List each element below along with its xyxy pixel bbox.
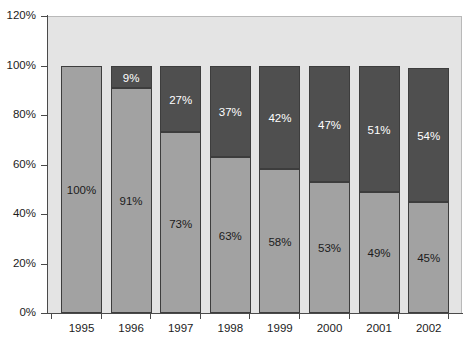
- bar-segment-label: 63%: [211, 230, 250, 242]
- bar-segment-lower[interactable]: 63%: [210, 157, 251, 313]
- bar-group[interactable]: 47%53%: [309, 66, 350, 314]
- bar-segment-label: 58%: [260, 236, 299, 248]
- y-tick-mark: [41, 115, 48, 116]
- bar-segment-label: 37%: [211, 106, 250, 118]
- y-tick-label: 100%: [0, 60, 36, 71]
- y-tick-mark: [41, 16, 48, 17]
- bar-segment-lower[interactable]: 53%: [309, 182, 350, 313]
- x-tick-mark: [398, 314, 399, 319]
- bar-segment-upper[interactable]: 9%: [111, 66, 152, 88]
- bar-segment-lower[interactable]: 100%: [61, 66, 102, 314]
- bar-segment-upper[interactable]: 37%: [210, 66, 251, 158]
- bar-segment-upper[interactable]: 42%: [259, 66, 300, 170]
- bar-segment-label: 49%: [360, 247, 399, 259]
- bar-group[interactable]: 9%91%: [111, 66, 152, 314]
- x-tick-mark: [200, 314, 201, 319]
- x-tick-mark: [349, 314, 350, 319]
- bar-group[interactable]: 42%58%: [259, 66, 300, 314]
- x-tick-mark: [299, 314, 300, 319]
- bar-segment-lower[interactable]: 58%: [259, 169, 300, 313]
- y-tick-mark: [41, 313, 48, 314]
- bar-segment-label: 42%: [260, 112, 299, 124]
- bar-segment-label: 100%: [62, 184, 101, 196]
- y-tick-label: 0%: [0, 307, 36, 318]
- x-tick-mark: [150, 314, 151, 319]
- bar-group[interactable]: 100%: [61, 66, 102, 314]
- bar-segment-label: 53%: [310, 242, 349, 254]
- y-tick-label: 120%: [0, 10, 36, 21]
- bar-segment-label: 27%: [161, 94, 200, 106]
- y-tick-label: 60%: [0, 159, 36, 170]
- x-tick-mark: [101, 314, 102, 319]
- y-tick-mark: [41, 165, 48, 166]
- y-tick-label: 20%: [0, 258, 36, 269]
- bar-segment-label: 9%: [112, 72, 151, 84]
- x-tick-label: 2002: [399, 322, 459, 335]
- bar-segment-upper[interactable]: 47%: [309, 66, 350, 182]
- bar-segment-lower[interactable]: 91%: [111, 88, 152, 313]
- stacked-bar-chart: 0%20%40%60%80%100%120% 19951996199719981…: [0, 0, 473, 347]
- bar-segment-label: 47%: [310, 119, 349, 131]
- y-tick-label: 40%: [0, 208, 36, 219]
- bar-segment-label: 91%: [112, 195, 151, 207]
- x-axis-line: [47, 313, 463, 314]
- y-tick-mark: [41, 264, 48, 265]
- x-tick-mark: [448, 314, 449, 319]
- plot-area: [47, 16, 462, 313]
- bar-segment-lower[interactable]: 73%: [160, 132, 201, 313]
- y-tick-mark: [41, 214, 48, 215]
- y-tick-mark: [41, 66, 48, 67]
- bar-segment-label: 54%: [409, 130, 448, 142]
- bar-segment-upper[interactable]: 54%: [408, 68, 449, 202]
- bar-group[interactable]: 51%49%: [359, 66, 400, 314]
- bar-segment-label: 45%: [409, 252, 448, 264]
- bar-segment-upper[interactable]: 27%: [160, 66, 201, 133]
- y-tick-label: 80%: [0, 109, 36, 120]
- bar-group[interactable]: 37%63%: [210, 66, 251, 314]
- bar-segment-lower[interactable]: 45%: [408, 202, 449, 313]
- bar-group[interactable]: 54%45%: [408, 68, 449, 313]
- x-tick-mark: [249, 314, 250, 319]
- bar-segment-upper[interactable]: 51%: [359, 66, 400, 192]
- bar-segment-label: 51%: [360, 124, 399, 136]
- bar-segment-label: 73%: [161, 218, 200, 230]
- bar-group[interactable]: 27%73%: [160, 66, 201, 314]
- bar-segment-lower[interactable]: 49%: [359, 192, 400, 313]
- x-tick-mark: [51, 314, 52, 319]
